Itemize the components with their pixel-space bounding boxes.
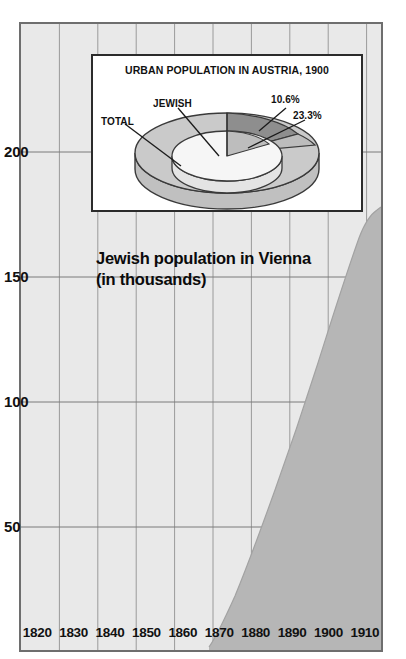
x-axis-tick-1870: 1870 <box>201 614 237 652</box>
x-axis: 1820 1830 1840 1850 1860 1870 1880 1890 … <box>19 614 383 652</box>
x-axis-tick-1850: 1850 <box>128 614 164 652</box>
inset-label-percent-10-6: 10.6% <box>271 94 300 105</box>
x-axis-tick-1880: 1880 <box>237 614 273 652</box>
chart-title-line2: (in thousands) <box>96 269 346 290</box>
inset-label-total: TOTAL <box>101 116 134 127</box>
inset-panel-urban-population: URBAN POPULATION IN AUSTRIA, 1900 <box>91 54 363 212</box>
x-axis-tick-1840: 1840 <box>92 614 128 652</box>
page-title: Jewish population in Vienna (in thousand… <box>96 248 346 290</box>
y-axis-tick-100: 100 <box>4 394 28 409</box>
x-axis-tick-1910: 1910 <box>347 614 383 652</box>
y-axis-tick-150: 150 <box>4 269 28 284</box>
inset-label-jewish: JEWISH <box>153 98 192 109</box>
inset-donut-chart <box>93 56 361 210</box>
y-axis-tick-50: 50 <box>4 519 20 534</box>
y-axis-tick-200: 200 <box>4 144 28 159</box>
x-axis-tick-1820: 1820 <box>19 614 55 652</box>
x-axis-tick-1830: 1830 <box>55 614 91 652</box>
x-axis-tick-1890: 1890 <box>274 614 310 652</box>
x-axis-tick-1860: 1860 <box>165 614 201 652</box>
chart-title-line1: Jewish population in Vienna <box>96 248 346 269</box>
inset-label-percent-23-3: 23.3% <box>293 110 322 121</box>
x-axis-tick-1900: 1900 <box>310 614 346 652</box>
chart-figure: URBAN POPULATION IN AUSTRIA, 1900 <box>0 0 406 659</box>
plot-frame: URBAN POPULATION IN AUSTRIA, 1900 <box>19 22 383 652</box>
